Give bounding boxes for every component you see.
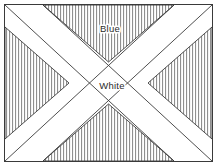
cross-label: White [99, 80, 124, 91]
field-label: Blue [100, 23, 120, 34]
flag-diagram-figure: Blue Blue White White [0, 0, 221, 168]
flag-diagram-svg: Blue Blue White White [0, 0, 221, 168]
